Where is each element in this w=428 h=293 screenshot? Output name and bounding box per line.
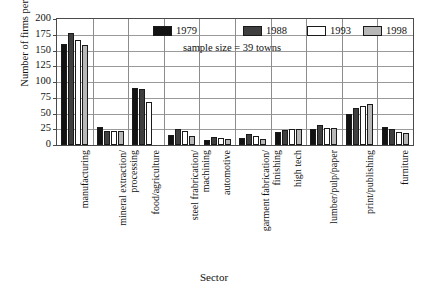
- bar: [275, 132, 281, 145]
- bar: [246, 134, 252, 145]
- x-axis-category-label: lumber/pulp/paper: [328, 150, 339, 246]
- bar-group: [271, 19, 307, 145]
- bar: [296, 129, 302, 145]
- category-label-line: furniture: [399, 150, 410, 246]
- bar-group: [377, 19, 413, 145]
- bar: [204, 140, 210, 145]
- category-label-line: finishing: [271, 150, 282, 246]
- bar: [317, 125, 323, 145]
- category-label-line: steel frabrication/: [189, 150, 200, 246]
- x-axis-category-label: mineral extraction/processing: [117, 150, 139, 246]
- sample-size-annotation: sample size = 39 towns: [57, 42, 407, 53]
- bar: [182, 131, 188, 145]
- category-label-line: machining: [200, 150, 211, 246]
- category-label-line: food/agriculture: [150, 150, 161, 246]
- bar-group: [57, 19, 93, 145]
- bar: [367, 104, 373, 145]
- bar: [382, 127, 388, 145]
- y-axis-tick-label: 25: [5, 123, 51, 134]
- x-axis-category-label: automotive: [221, 150, 232, 246]
- bar: [331, 128, 337, 145]
- bar: [225, 139, 231, 145]
- category-label-line: manufacturing: [79, 150, 90, 246]
- y-axis-tick-label: 125: [5, 60, 51, 71]
- x-axis-category-label: manufacturing: [79, 150, 90, 246]
- y-axis-tick-label: 75: [5, 92, 51, 103]
- y-axis-tick-label: 200: [5, 13, 51, 24]
- bar: [132, 88, 138, 145]
- bar: [324, 128, 330, 145]
- category-label-line: lumber/pulp/paper: [328, 150, 339, 246]
- x-axis-category-label: steel frabrication/machining: [189, 150, 211, 246]
- bar: [104, 131, 110, 145]
- x-axis-category-label: garment fabrication/finishing: [260, 150, 282, 246]
- bar-group: [235, 19, 271, 145]
- y-axis-tick-label: 100: [5, 76, 51, 87]
- x-axis-category-label: furniture: [399, 150, 410, 246]
- category-label-line: processing: [129, 150, 140, 246]
- y-axis-tick-label: 0: [5, 139, 51, 150]
- bar-group: [93, 19, 129, 145]
- category-label-line: print/publishing: [364, 150, 375, 246]
- bar: [346, 114, 352, 146]
- y-axis-tick-label: 175: [5, 29, 51, 40]
- bar: [118, 131, 124, 145]
- bar: [253, 136, 259, 145]
- bar: [111, 131, 117, 145]
- bar: [282, 130, 288, 145]
- x-axis-category-label: high tech: [292, 150, 303, 246]
- y-axis-tick-mark: [53, 145, 57, 146]
- bar-group: [128, 19, 164, 145]
- bar: [260, 139, 266, 145]
- bar: [97, 127, 103, 145]
- bar: [218, 138, 224, 145]
- bar-group: [199, 19, 235, 145]
- x-axis-category-label: print/publishing: [364, 150, 375, 246]
- category-label-line: high tech: [292, 150, 303, 246]
- plot-area: 2001751501251007550250 1979198819931998 …: [56, 18, 414, 146]
- bar: [211, 137, 217, 145]
- bar-group: [306, 19, 342, 145]
- bar: [189, 136, 195, 145]
- bar: [310, 129, 316, 145]
- bar: [146, 102, 152, 145]
- x-axis-category-label: food/agriculture: [150, 150, 161, 246]
- category-label-line: automotive: [221, 150, 232, 246]
- cropped-caption-sliver: [16, 0, 416, 6]
- bar: [75, 40, 81, 145]
- bar-chart-figure: Number of firms per sector 2001751501251…: [0, 0, 428, 293]
- y-axis-tick-label: 50: [5, 108, 51, 119]
- bar: [389, 129, 395, 145]
- bar: [360, 106, 366, 145]
- y-axis-tick-label: 150: [5, 45, 51, 56]
- bar: [403, 133, 409, 145]
- bar: [353, 108, 359, 145]
- bar: [139, 89, 145, 145]
- bar: [82, 45, 88, 145]
- bar-group: [342, 19, 378, 145]
- bar: [289, 129, 295, 145]
- bar: [168, 135, 174, 145]
- x-axis-title: Sector: [0, 271, 428, 283]
- category-label-line: garment fabrication/: [260, 150, 271, 246]
- bar: [175, 129, 181, 145]
- category-label-line: mineral extraction/: [117, 150, 128, 246]
- bar-group: [164, 19, 200, 145]
- bar: [61, 44, 67, 145]
- bar: [239, 138, 245, 145]
- bar: [396, 132, 402, 145]
